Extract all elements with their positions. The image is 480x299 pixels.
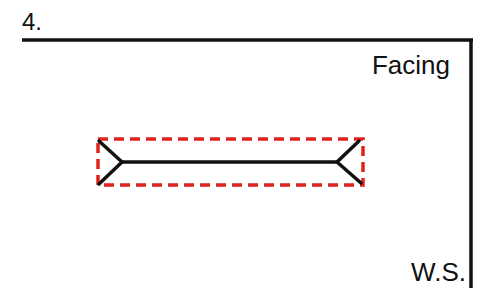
left-fork: [99, 141, 122, 184]
diagram-canvas: [0, 0, 480, 299]
double-fork-bar: [99, 141, 361, 184]
right-fork: [337, 141, 361, 183]
